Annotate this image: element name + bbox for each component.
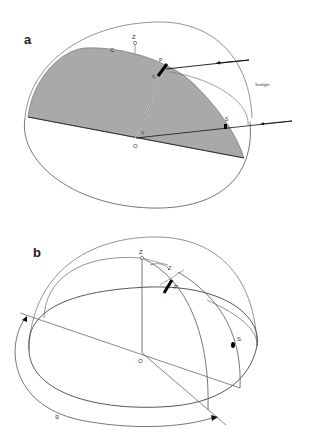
- label-p: P: [159, 57, 163, 63]
- meridian-left: [44, 257, 142, 318]
- label-s-b: S: [237, 336, 241, 342]
- sunlight-label: Sunlight: [255, 82, 270, 87]
- angle-label-top: η: [152, 73, 155, 79]
- horizon-line-b: [20, 313, 240, 388]
- meridian-sun: [178, 272, 240, 388]
- zenith-marker: [133, 41, 136, 44]
- panel-b: b Z Z P S O Φ: [15, 237, 257, 427]
- dome-outline-b: [29, 237, 257, 350]
- panel-label-a: a: [24, 32, 32, 47]
- label-z-b: Z: [139, 249, 143, 255]
- angle-label-bottom: η: [141, 129, 144, 135]
- zenith-marker-b: [140, 256, 143, 259]
- base-ellipse-b: [29, 287, 258, 407]
- meridian-pole: [142, 258, 208, 410]
- sun-marker-b: [231, 342, 235, 348]
- meridian-line-b: [142, 353, 226, 425]
- sun-marker: [224, 124, 227, 129]
- label-p-b: P: [174, 284, 178, 290]
- meridian-right: [207, 300, 257, 346]
- panel-label-b: b: [33, 245, 41, 260]
- label-o-b: O: [138, 358, 143, 364]
- azimuth-arc: [15, 317, 212, 427]
- panel-a: a Z C P S O η η Sunlight: [24, 22, 292, 208]
- sunlight-ray-s: [262, 121, 292, 124]
- label-s: S: [225, 116, 229, 122]
- label-zenith-angle: Z: [167, 265, 172, 271]
- label-c: C: [110, 47, 115, 53]
- label-z: Z: [132, 34, 136, 40]
- label-o: O: [133, 143, 138, 149]
- label-azimuth: Φ: [55, 414, 59, 420]
- figure: a Z C P S O η η Sunlight: [0, 0, 310, 448]
